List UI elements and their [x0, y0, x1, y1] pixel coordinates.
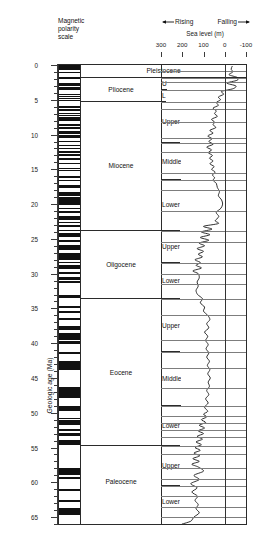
sea-level-gridline	[161, 180, 246, 181]
polarity-normal-band	[59, 211, 80, 213]
age-major-tick	[51, 239, 58, 240]
polarity-normal-band	[59, 94, 80, 95]
rising-falling-header: Rising Falling	[160, 18, 250, 28]
falling-annotation: Falling	[218, 18, 250, 25]
polarity-normal-band	[59, 145, 80, 146]
arrow-left-icon	[162, 19, 175, 25]
age-tick-label: 0	[34, 62, 38, 69]
sea-level-axis-title: Sea level (m)	[160, 30, 250, 37]
geologic-age-axis: Geologic age (Ma) 0510152025303540455055…	[40, 64, 58, 525]
polarity-normal-band	[59, 100, 80, 102]
magnetic-polarity-scale-caption: Magnetic polarity scale	[58, 17, 128, 42]
polarity-normal-band	[59, 262, 80, 264]
polarity-normal-band	[59, 433, 80, 436]
sea-level-gridline	[161, 496, 246, 497]
sea-level-gridline	[161, 122, 246, 123]
figure-root: Magnetic polarity scale Rising Falling S…	[0, 0, 268, 556]
sea-level-gridline	[161, 82, 246, 83]
polarity-normal-band	[59, 230, 80, 231]
sea-level-gridline	[161, 388, 246, 389]
sea-level-gridline	[161, 352, 246, 353]
arrow-right-icon	[237, 19, 250, 25]
sea-level-gridline	[161, 416, 246, 417]
polarity-normal-band	[59, 197, 80, 205]
sea-level-gridline	[161, 231, 246, 232]
epoch-cell: Paleocene	[81, 446, 161, 517]
sea-level-gridline	[161, 173, 246, 174]
age-tick-label: 40	[31, 340, 38, 347]
age-tick-label: 10	[31, 131, 38, 138]
sea-level-gridline	[161, 78, 246, 79]
polarity-normal-band	[59, 168, 80, 169]
sea-level-gridline	[161, 517, 246, 518]
polarity-normal-band	[59, 225, 80, 227]
polarity-normal-band	[59, 295, 80, 298]
polarity-normal-band	[59, 154, 80, 155]
sea-level-gridline	[161, 109, 246, 110]
polarity-normal-band	[59, 132, 80, 134]
sea-level-gridline	[161, 423, 246, 424]
age-major-tick	[51, 413, 58, 414]
polarity-normal-band	[59, 180, 80, 182]
polarity-normal-band	[59, 115, 80, 116]
sea-level-gridline	[161, 368, 246, 369]
rising-label: Rising	[175, 18, 193, 25]
polarity-normal-band	[59, 311, 80, 314]
age-major-tick	[51, 517, 58, 518]
age-tick-label: 30	[31, 270, 38, 277]
sea-level-gridline	[161, 406, 246, 407]
age-tick-label: 45	[31, 374, 38, 381]
age-major-tick	[51, 100, 58, 101]
age-tick-label: 15	[31, 166, 38, 173]
age-tick-label: 5	[34, 96, 38, 103]
polarity-normal-band	[59, 341, 80, 344]
age-major-tick	[51, 274, 58, 275]
polarity-normal-band	[59, 72, 80, 73]
sea-level-gridline	[161, 284, 246, 285]
age-major-tick	[51, 204, 58, 205]
polarity-normal-band	[59, 163, 80, 164]
age-tick-label: 65	[31, 514, 38, 521]
polarity-normal-band	[59, 158, 80, 161]
polarity-normal-band	[59, 233, 80, 237]
age-tick-label: 25	[31, 235, 38, 242]
sea-level-gridline	[161, 486, 246, 487]
polarity-normal-band	[59, 508, 80, 516]
x-tick-mark	[225, 52, 226, 57]
age-tick-label: 35	[31, 305, 38, 312]
age-axis-title: Geologic age (Ma)	[46, 301, 53, 471]
polarity-normal-band	[59, 218, 80, 219]
age-major-tick	[51, 482, 58, 483]
epoch-cell: Miocene	[81, 102, 161, 231]
x-tick-label: -100	[240, 41, 252, 48]
polarity-normal-band	[59, 192, 80, 195]
sea-level-zero-line	[225, 65, 226, 524]
mps-line-2: polarity	[58, 25, 128, 33]
epoch-cell: Pliocene	[81, 78, 161, 102]
polarity-normal-band	[59, 96, 80, 97]
polarity-normal-band	[59, 222, 80, 223]
polarity-normal-band	[59, 151, 80, 153]
polarity-normal-band	[59, 135, 80, 138]
x-tick-label: 200	[177, 41, 187, 48]
polarity-normal-band	[59, 281, 80, 283]
sea-level-tick-marks	[0, 52, 268, 64]
polarity-normal-band	[59, 245, 80, 250]
sea-level-gridline	[161, 274, 246, 275]
sea-level-gridline	[161, 446, 246, 447]
sea-level-gridline	[161, 102, 246, 103]
rising-annotation: Rising	[162, 18, 193, 25]
sea-level-gridline	[161, 242, 246, 243]
age-tick-label: 50	[31, 409, 38, 416]
age-tick-label: 20	[31, 201, 38, 208]
sea-level-gridline	[161, 479, 246, 480]
age-major-tick	[51, 65, 58, 66]
age-tick-label: 55	[31, 444, 38, 451]
epoch-cell: Eocene	[81, 299, 161, 446]
polarity-normal-band	[59, 440, 80, 445]
polarity-normal-band	[59, 477, 80, 479]
age-major-tick	[51, 169, 58, 170]
sea-level-gridline	[161, 507, 246, 508]
polarity-normal-band	[59, 500, 80, 502]
polarity-normal-band	[59, 277, 80, 280]
